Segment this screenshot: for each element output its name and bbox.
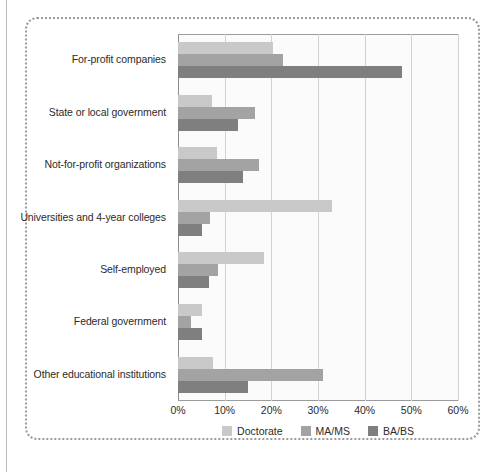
- plot-area-wrapper: [178, 34, 458, 401]
- bar-group: [178, 95, 458, 131]
- bar: [178, 304, 202, 316]
- x-tick-label: 40%: [354, 404, 375, 416]
- bar: [178, 42, 273, 54]
- bar: [178, 119, 238, 131]
- legend-label: Doctorate: [237, 425, 283, 437]
- category-axis-labels: For-profit companiesState or local gover…: [25, 34, 172, 401]
- bar-group: [178, 357, 458, 393]
- bar: [178, 107, 255, 119]
- bar: [178, 66, 402, 78]
- x-tick-label: 10%: [214, 404, 235, 416]
- x-tick-label: 0%: [170, 404, 185, 416]
- bar-group: [178, 200, 458, 236]
- bar: [178, 147, 217, 159]
- bar: [178, 171, 243, 183]
- bar: [178, 95, 212, 107]
- bar: [178, 224, 202, 236]
- bar: [178, 200, 332, 212]
- x-tick-label: 60%: [447, 404, 468, 416]
- category-label: State or local government: [6, 106, 166, 118]
- chart-legend: DoctorateMA/MSBA/BS: [178, 423, 458, 439]
- legend-swatch-icon: [301, 426, 311, 436]
- x-tick-label: 20%: [261, 404, 282, 416]
- category-label: Not-for-profit organizations: [6, 158, 166, 170]
- bar: [178, 54, 283, 66]
- legend-label: BA/BS: [383, 425, 414, 437]
- category-label: Self-employed: [6, 263, 166, 275]
- legend-label: MA/MS: [316, 425, 350, 437]
- x-tick-label: 30%: [307, 404, 328, 416]
- bar: [178, 212, 210, 224]
- bar: [178, 369, 323, 381]
- legend-item: BA/BS: [368, 425, 414, 437]
- bar: [178, 381, 248, 393]
- bar: [178, 328, 202, 340]
- category-label: Other educational institutions: [6, 368, 166, 380]
- bar: [178, 357, 213, 369]
- bar-group: [178, 304, 458, 340]
- bar: [178, 316, 191, 328]
- gridline-60pct: [458, 34, 459, 401]
- bar-groups: [178, 34, 458, 401]
- bar: [178, 264, 218, 276]
- x-axis-tick-labels: 0%10%20%30%40%50%60%: [178, 404, 458, 420]
- bar: [178, 159, 259, 171]
- legend-item: Doctorate: [222, 425, 283, 437]
- category-label: Universities and 4-year colleges: [6, 211, 166, 223]
- legend-swatch-icon: [368, 426, 378, 436]
- bar-group: [178, 252, 458, 288]
- bar-group: [178, 42, 458, 78]
- bar-group: [178, 147, 458, 183]
- bar: [178, 252, 264, 264]
- category-label: For-profit companies: [6, 53, 166, 65]
- legend-item: MA/MS: [301, 425, 350, 437]
- category-label: Federal government: [6, 315, 166, 327]
- legend-swatch-icon: [222, 426, 232, 436]
- bar-chart: For-profit companiesState or local gover…: [0, 0, 503, 472]
- bar: [178, 276, 209, 288]
- x-tick-label: 50%: [401, 404, 422, 416]
